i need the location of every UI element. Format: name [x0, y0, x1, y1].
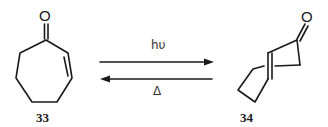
- reactant-oxygen-atom: O: [39, 7, 51, 24]
- reaction-scheme: O 33 hυ Δ O 34: [0, 0, 328, 127]
- product-bond-bottom: [275, 65, 300, 66]
- reactant-label: 33: [36, 110, 50, 125]
- product-bond-right: [297, 40, 300, 65]
- product-carbonyl-bond: [297, 24, 305, 39]
- product-lower-ring: [238, 66, 268, 102]
- reactant-alkene-double-bond: [64, 57, 68, 76]
- product-oxygen-atom: O: [301, 8, 313, 25]
- product-bond-top: [268, 40, 297, 53]
- product-label: 34: [240, 110, 254, 125]
- product-34-structure: O 34: [238, 8, 313, 125]
- forward-arrow-head: [204, 59, 214, 66]
- reverse-condition-label: Δ: [153, 84, 162, 98]
- equilibrium-arrows: hυ Δ: [100, 38, 214, 98]
- reactant-33-structure: O 33: [16, 7, 72, 125]
- forward-condition-label: hυ: [151, 38, 166, 52]
- reverse-arrow-head: [100, 76, 110, 83]
- reactant-ring: [16, 40, 72, 102]
- product-carbonyl-bond-second: [300, 26, 308, 41]
